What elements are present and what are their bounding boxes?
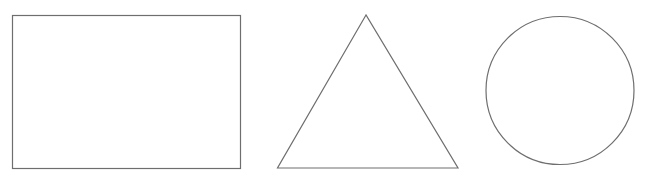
rectangle-shape xyxy=(13,16,241,169)
triangle-shape xyxy=(278,15,459,168)
circle-shape xyxy=(486,17,634,165)
shapes-canvas xyxy=(0,0,659,179)
